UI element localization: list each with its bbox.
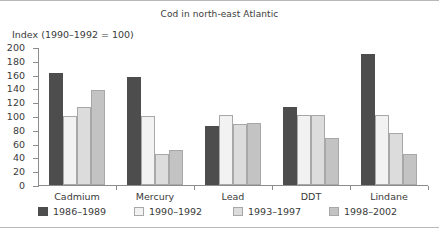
y-tick-label: 100 (0, 111, 25, 122)
y-tick: 100 (33, 117, 38, 118)
legend-label: 1986–1989 (53, 206, 106, 217)
y-tick: 160 (33, 76, 38, 77)
chart-figure: Cod in north-east Atlantic Index (1990–1… (0, 0, 439, 228)
legend-swatch-icon (329, 207, 339, 216)
y-tick-label: 180 (0, 56, 25, 67)
x-tick (428, 186, 429, 190)
legend-item[interactable]: 1986–1989 (38, 206, 106, 217)
y-tick: 200 (33, 48, 38, 49)
bar (127, 77, 141, 185)
y-tick-label: 140 (0, 83, 25, 94)
bar (169, 150, 183, 185)
bar (155, 154, 169, 185)
bar (205, 126, 219, 185)
legend-item[interactable]: 1998–2002 (329, 206, 397, 217)
bar (311, 115, 325, 185)
bar (375, 115, 389, 185)
bar (325, 138, 339, 185)
y-tick-label: 160 (0, 70, 25, 81)
y-tick: 0 (33, 186, 38, 187)
y-tick-label: 80 (0, 125, 25, 136)
bar (297, 115, 311, 185)
y-tick-label: 120 (0, 97, 25, 108)
y-tick-label: 0 (0, 180, 25, 191)
chart-legend: 1986–19891990–19921993–19971998–2002 (38, 206, 433, 220)
bar-group (49, 47, 105, 185)
bar-group (127, 47, 183, 185)
y-tick: 40 (33, 158, 38, 159)
x-tick (116, 186, 117, 190)
y-tick: 80 (33, 131, 38, 132)
legend-label: 1990–1992 (149, 206, 202, 217)
bar (283, 107, 297, 185)
bar (91, 90, 105, 185)
bar (403, 154, 417, 185)
plot-area: 020406080100120140160180200 (38, 48, 428, 186)
bar-group (361, 47, 417, 185)
x-tick (272, 186, 273, 190)
bar (219, 115, 233, 185)
x-category-label: Mercury (116, 191, 194, 202)
x-tick (350, 186, 351, 190)
x-category-label: Lindane (350, 191, 428, 202)
y-tick: 180 (33, 62, 38, 63)
x-category-label: Cadmium (38, 191, 116, 202)
y-axis-line (38, 48, 39, 187)
bar-group (283, 47, 339, 185)
x-axis-line (38, 185, 428, 186)
y-axis-label: Index (1990–1992 = 100) (12, 29, 134, 40)
legend-label: 1993–1997 (248, 206, 301, 217)
y-tick: 120 (33, 103, 38, 104)
y-tick: 60 (33, 145, 38, 146)
chart-title: Cod in north-east Atlantic (0, 9, 439, 19)
bar (141, 116, 155, 185)
bar (49, 73, 63, 185)
x-category-label: Lead (194, 191, 272, 202)
bar (361, 54, 375, 185)
bar (233, 124, 247, 185)
legend-swatch-icon (134, 207, 144, 216)
y-tick-label: 40 (0, 152, 25, 163)
bar-group (205, 47, 261, 185)
legend-swatch-icon (233, 207, 243, 216)
y-tick: 140 (33, 89, 38, 90)
y-tick: 20 (33, 172, 38, 173)
bar (77, 107, 91, 185)
legend-label: 1998–2002 (344, 206, 397, 217)
bar (63, 116, 77, 185)
bar (247, 123, 261, 185)
y-tick-label: 200 (0, 42, 25, 53)
legend-item[interactable]: 1990–1992 (134, 206, 202, 217)
legend-item[interactable]: 1993–1997 (233, 206, 301, 217)
bar (389, 133, 403, 185)
legend-swatch-icon (38, 207, 48, 216)
y-tick-label: 60 (0, 139, 25, 150)
x-category-label: DDT (272, 191, 350, 202)
y-tick-label: 20 (0, 166, 25, 177)
x-tick (194, 186, 195, 190)
